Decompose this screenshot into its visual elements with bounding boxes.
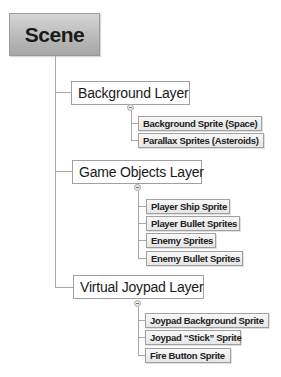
sprite-node-parallax-sprites: Parallax Sprites (Asteroids) (138, 133, 264, 148)
sprite-node-joypad-background: Joypad Background Sprite (145, 313, 269, 328)
connector-root-to-virtual-joypad-layer (55, 287, 74, 288)
connector (138, 320, 145, 321)
layer-node-virtual-joypad: Virtual Joypad Layer (73, 275, 204, 299)
background-layer-branch (131, 111, 132, 141)
game-objects-layer-branch (138, 191, 139, 258)
sprite-node-joypad-stick: Joypad “Stick” Sprite (145, 330, 241, 345)
collapse-icon[interactable] (134, 184, 141, 191)
sprite-node-enemy: Enemy Sprites (146, 233, 216, 248)
connector-root-to-background-layer (55, 92, 72, 93)
sprite-node-player-bullets: Player Bullet Sprites (146, 216, 240, 231)
connector (131, 123, 138, 124)
connector (138, 206, 146, 207)
connector (138, 337, 145, 338)
collapse-icon[interactable] (127, 104, 134, 111)
root-node-scene: Scene (9, 13, 100, 56)
root-connector-trunk (55, 56, 56, 288)
sprite-node-background-sprite: Background Sprite (Space) (138, 116, 262, 131)
virtual-joypad-layer-branch (138, 307, 139, 356)
sprite-node-fire-button: Fire Button Sprite (145, 348, 231, 363)
connector-root-to-game-objects-layer (55, 171, 73, 172)
layer-node-background: Background Layer (71, 81, 190, 105)
connector (138, 223, 146, 224)
layer-node-game-objects: Game Objects Layer (72, 160, 202, 184)
connector (138, 258, 146, 259)
connector (138, 240, 146, 241)
sprite-node-enemy-bullets: Enemy Bullet Sprites (146, 251, 243, 266)
connector (131, 140, 138, 141)
sprite-node-player-ship: Player Ship Sprite (146, 199, 230, 214)
connector (138, 355, 145, 356)
collapse-icon[interactable] (134, 300, 141, 307)
